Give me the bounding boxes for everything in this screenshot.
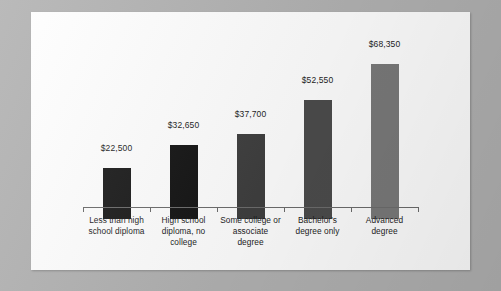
x-axis-category-line: degree bbox=[218, 237, 283, 248]
bar-value-label: $52,550 bbox=[278, 75, 358, 85]
x-axis-category-line: associate bbox=[218, 226, 283, 237]
x-axis-tick bbox=[351, 207, 352, 212]
x-axis-category-label: Bachelor'sdegree only bbox=[285, 215, 350, 237]
bar-advanced-degree[interactable] bbox=[371, 64, 399, 219]
x-axis-tick bbox=[418, 207, 419, 212]
x-axis-category-line: Bachelor's bbox=[285, 215, 350, 226]
x-axis-category-label: Advanceddegree bbox=[352, 215, 417, 237]
bar-value-label: $68,350 bbox=[345, 39, 425, 49]
x-axis-tick bbox=[284, 207, 285, 212]
figure-backdrop: $22,500 $32,650 $37,700 $52,550 $68,350 … bbox=[0, 0, 501, 291]
bar-value-label: $37,700 bbox=[211, 109, 291, 119]
x-axis-category-line: diploma, no bbox=[151, 226, 216, 237]
bar-value-label: $32,650 bbox=[144, 120, 224, 130]
x-axis-tick bbox=[217, 207, 218, 212]
x-axis-category-line: school diploma bbox=[84, 226, 149, 237]
x-axis-tick bbox=[83, 207, 84, 212]
x-axis-category-label: Some college orassociatedegree bbox=[218, 215, 283, 248]
bar-bachelors-degree[interactable] bbox=[304, 100, 332, 219]
x-axis-line bbox=[83, 207, 418, 208]
x-axis-category-label: High schooldiploma, nocollege bbox=[151, 215, 216, 248]
x-axis-category-line: degree only bbox=[285, 226, 350, 237]
bar-value-label: $22,500 bbox=[77, 143, 157, 153]
x-axis-category-line: Some college or bbox=[218, 215, 283, 226]
x-axis-category-line: Less than high bbox=[84, 215, 149, 226]
x-axis-category-line: degree bbox=[352, 226, 417, 237]
x-axis-category-line: High school bbox=[151, 215, 216, 226]
x-axis-category-line: college bbox=[151, 237, 216, 248]
bar-less-than-high-school[interactable] bbox=[103, 168, 131, 219]
bar-chart-plot-area: $22,500 $32,650 $37,700 $52,550 $68,350 … bbox=[31, 12, 470, 270]
x-axis-category-line: Advanced bbox=[352, 215, 417, 226]
x-axis-category-label: Less than highschool diploma bbox=[84, 215, 149, 237]
chart-panel: $22,500 $32,650 $37,700 $52,550 $68,350 … bbox=[31, 12, 470, 270]
x-axis-tick bbox=[150, 207, 151, 212]
